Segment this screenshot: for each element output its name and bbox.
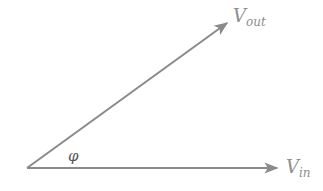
phasor-diagram: Vout Vin φ [0,0,323,191]
vout-vector [27,23,227,168]
vin-label: Vin [286,156,311,180]
vout-label-subscript: out [246,15,266,29]
vout-label: Vout [233,5,266,29]
phase-angle-label: φ [68,147,79,165]
vin-label-subscript: in [299,166,311,180]
